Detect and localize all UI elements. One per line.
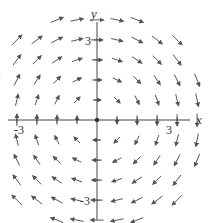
field-arrow	[51, 218, 64, 223]
field-arrow	[131, 17, 144, 22]
field-arrow	[132, 57, 142, 63]
origin-dot	[95, 118, 99, 122]
field-arrow	[172, 35, 182, 45]
field-arrow	[135, 136, 139, 145]
field-arrow	[133, 156, 140, 163]
field-arrow	[132, 197, 143, 203]
field-arrow	[196, 94, 199, 107]
field-arrow	[35, 135, 38, 145]
field-arrow	[33, 56, 42, 64]
field-arrow	[111, 199, 123, 202]
field-arrow	[112, 178, 122, 181]
field-arrow	[113, 78, 122, 82]
field-arrow	[52, 177, 62, 183]
field-arrow	[135, 96, 139, 105]
field-arrow	[173, 175, 181, 185]
x-tick-label-3: 3	[166, 123, 172, 137]
field-arrow	[114, 137, 120, 143]
field-arrow	[196, 134, 199, 147]
field-arrow	[74, 137, 80, 143]
field-arrow	[152, 36, 162, 44]
field-arrow	[154, 75, 160, 85]
field-arrow	[154, 155, 160, 165]
x-axis-label: x	[195, 112, 202, 127]
field-arrow	[16, 94, 19, 106]
field-arrow	[55, 136, 59, 145]
field-arrow	[33, 176, 42, 185]
field-arrow	[74, 97, 80, 103]
field-arrow	[114, 97, 120, 103]
field-arrow	[112, 58, 122, 61]
field-arrow	[132, 37, 143, 43]
field-arrow	[53, 76, 60, 83]
field-arrow	[111, 19, 124, 22]
field-arrow	[176, 94, 179, 106]
field-arrow	[51, 17, 64, 22]
field-arrow	[153, 176, 162, 185]
vector-field-plot: x y -3 3 3 -3	[0, 0, 208, 223]
field-arrow	[53, 156, 60, 163]
field-arrow	[13, 55, 21, 65]
field-arrow	[71, 19, 84, 22]
field-arrow	[55, 96, 59, 105]
field-arrow	[35, 95, 38, 105]
field-arrow	[32, 196, 42, 204]
field-arrow	[34, 75, 40, 85]
field-arrow	[52, 57, 62, 63]
field-arrow	[172, 195, 182, 205]
field-arrow	[155, 135, 158, 145]
field-arrow	[34, 155, 40, 165]
field-arrow	[155, 95, 158, 105]
y-tick-label-neg3: -3	[80, 194, 90, 208]
x-tick-label-neg3: -3	[14, 123, 24, 137]
field-arrow	[174, 74, 180, 85]
field-arrow	[174, 155, 180, 166]
field-arrow	[132, 177, 142, 183]
field-arrow	[195, 74, 200, 87]
field-arrow	[131, 218, 144, 223]
field-arrow	[71, 219, 84, 222]
field-arrow	[195, 154, 200, 167]
y-axis-label: y	[89, 6, 97, 21]
y-tick-label-3: 3	[85, 34, 91, 48]
field-arrow	[111, 219, 124, 222]
field-arrow	[32, 36, 42, 44]
field-arrow	[73, 158, 82, 162]
field-arrow	[12, 35, 22, 45]
field-arrow	[133, 76, 140, 83]
field-arrow	[111, 39, 123, 42]
field-arrow	[51, 37, 62, 43]
field-arrow	[152, 196, 162, 204]
field-arrow	[12, 195, 22, 205]
field-arrow	[72, 178, 82, 181]
field-arrow	[13, 175, 21, 185]
field-arrow	[51, 197, 62, 203]
field-arrow	[14, 74, 20, 85]
field-arrow	[173, 55, 181, 65]
field-arrow	[71, 39, 83, 42]
field-arrow	[153, 56, 162, 64]
field-arrow	[113, 158, 122, 162]
field-arrow	[73, 78, 82, 82]
field-arrow	[14, 155, 20, 166]
field-arrow	[72, 58, 82, 61]
field-arrow	[176, 134, 179, 146]
